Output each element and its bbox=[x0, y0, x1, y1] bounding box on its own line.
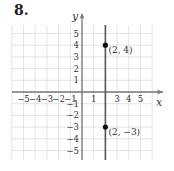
x-axis-label: x bbox=[156, 96, 163, 109]
y-tick-label: 2 bbox=[74, 64, 79, 74]
y-tick-label: 4 bbox=[74, 40, 79, 50]
data-point bbox=[103, 125, 108, 130]
point-label: (2, −3) bbox=[108, 127, 140, 137]
coordinate-plane: xy −5−4−3−2−1134554321−1−2−3−4−5 (2, 4)(… bbox=[0, 0, 174, 171]
y-tick-label: −2 bbox=[66, 110, 79, 120]
x-tick-label: 3 bbox=[114, 94, 119, 104]
x-tick-label: −2 bbox=[52, 94, 65, 104]
point-label: (2, 4) bbox=[108, 45, 132, 55]
y-tick-label: −4 bbox=[66, 134, 79, 144]
x-tick-label: −3 bbox=[41, 94, 54, 104]
x-tick-label: 5 bbox=[138, 94, 143, 104]
y-tick-label: −3 bbox=[66, 122, 79, 132]
data-point bbox=[103, 43, 108, 48]
x-tick-label: −4 bbox=[29, 94, 42, 104]
y-axis-label: y bbox=[71, 10, 79, 23]
y-tick-label: 1 bbox=[74, 75, 79, 85]
y-tick-label: −1 bbox=[66, 99, 79, 109]
y-tick-label: −5 bbox=[66, 146, 79, 156]
y-tick-label: 5 bbox=[74, 29, 79, 39]
x-tick-label: −5 bbox=[17, 94, 30, 104]
y-tick-label: 3 bbox=[74, 52, 79, 62]
x-tick-label: 1 bbox=[91, 94, 96, 104]
x-tick-label: 4 bbox=[126, 94, 131, 104]
